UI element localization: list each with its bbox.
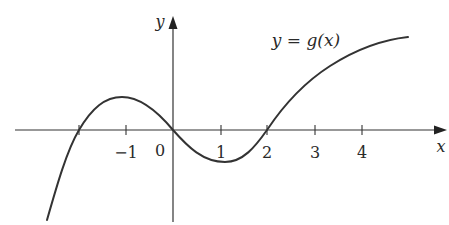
tick-label-4: 4 (357, 143, 367, 162)
origin-label: 0 (155, 141, 165, 160)
curve-g-of-x (47, 37, 408, 220)
x-axis-label: x (436, 137, 445, 156)
tick-label-1: 1 (216, 143, 226, 162)
tick-label-3: 3 (310, 143, 320, 162)
tick-label-minus-1: −1 (114, 143, 138, 162)
tick-label-2: 2 (262, 143, 272, 162)
graph-canvas: −1 0 1 2 3 4 x y y = g(x) (0, 0, 449, 225)
curve-label: y = g(x) (271, 30, 340, 50)
y-axis-label: y (154, 12, 165, 31)
y-axis-arrow-icon (169, 16, 178, 29)
x-axis-arrow-icon (434, 126, 447, 135)
